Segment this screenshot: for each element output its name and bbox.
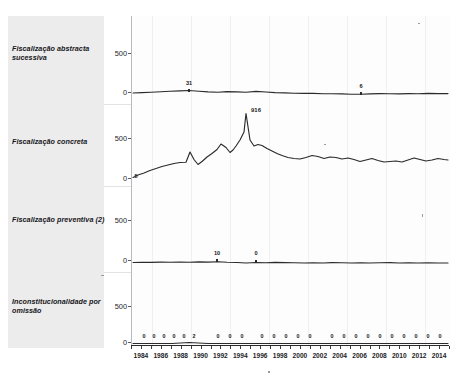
annotation-concreta-916: 916 — [246, 107, 266, 113]
x-tick-mark — [409, 346, 410, 349]
point-label: 0 — [234, 333, 250, 339]
x-tick-mark — [310, 346, 311, 349]
ytick-label-p1-0: 0 — [101, 88, 127, 97]
x-axis-label: 1992 — [209, 352, 231, 359]
x-tick-mark — [330, 346, 331, 349]
x-axis-label: 2002 — [309, 352, 331, 359]
panel-inconstitucionalidade-omissao: 0 0 0 0 0 2 0 0 0 0 0 0 0 0 0 0 0 0 0 0 — [131, 272, 450, 348]
x-axis-label: 1990 — [190, 352, 212, 359]
x-axis-label: 2006 — [349, 352, 371, 359]
ytick-label-p2-500: 500 — [101, 134, 127, 143]
annotation-preventiva-10: 10 — [209, 250, 225, 256]
x-tick-mark — [389, 346, 390, 349]
ytick-label-p4-500: 500 — [101, 302, 127, 311]
annotation-abstracta-31: 31 — [181, 80, 197, 86]
ytick-mark-p2-0 — [128, 178, 131, 179]
ytick-mark-p3-500 — [128, 220, 131, 221]
x-tick-mark — [399, 346, 400, 349]
x-tick-mark — [260, 346, 261, 349]
panel-label-abstracta-sucessiva: Fiscalização abstracta sucessiva — [12, 45, 106, 62]
panel-label-preventiva: Fiscalização preventiva (2) — [12, 216, 106, 225]
datapoint-marker-1989 — [188, 89, 190, 92]
panel-preventiva: 10 0 — [131, 186, 450, 272]
x-axis-label: 2004 — [329, 352, 351, 359]
chart-figure: Fiscalização abstracta sucessiva Fiscali… — [0, 0, 456, 379]
ytick-mark-p3-0 — [128, 260, 131, 261]
x-tick-mark — [230, 346, 231, 349]
x-axis-label: 2014 — [428, 352, 450, 359]
x-tick-mark — [191, 346, 192, 349]
datapoint-marker-1996 — [255, 260, 257, 263]
point-label: 0 — [432, 333, 448, 339]
ytick-label-p3-0: 0 — [101, 256, 127, 265]
x-tick-mark — [250, 346, 251, 349]
x-tick-mark — [300, 346, 301, 349]
scan-speck — [418, 23, 420, 24]
x-axis-label: 1988 — [170, 352, 192, 359]
x-axis-label: 1984 — [130, 352, 152, 359]
x-tick-mark — [141, 346, 142, 349]
x-tick-mark — [290, 346, 291, 349]
x-tick-mark — [181, 346, 182, 349]
ytick-mark-p4-0 — [128, 342, 131, 343]
scan-speck — [268, 371, 270, 373]
x-tick-mark — [449, 346, 450, 349]
x-tick-mark — [161, 346, 162, 349]
scan-speck — [422, 214, 423, 217]
x-tick-mark — [211, 346, 212, 349]
ytick-mark-p2-500 — [128, 138, 131, 139]
x-axis-label: 1998 — [269, 352, 291, 359]
panel-label-inconstitucionalidade-omissao: Inconstitucionalidade por omissão — [12, 298, 106, 315]
series-line-abstracta — [132, 16, 450, 104]
ytick-label-p1-500: 500 — [101, 49, 127, 58]
annotation-concreta-5: 5 — [132, 173, 144, 179]
x-tick-mark — [280, 346, 281, 349]
ytick-label-p3-500: 500 — [101, 216, 127, 225]
x-tick-mark — [320, 346, 321, 349]
x-axis-label: 1996 — [249, 352, 271, 359]
series-line-preventiva — [132, 186, 450, 272]
x-tick-mark — [360, 346, 361, 349]
annotation-preventiva-0: 0 — [248, 250, 264, 256]
x-tick-mark — [131, 346, 132, 349]
panel-label-concreta: Fiscalização concreta — [12, 138, 106, 147]
panel-concreta: 5 916 — [131, 104, 450, 186]
ytick-label-p4-0: 0 — [101, 338, 127, 347]
scan-speck — [101, 275, 104, 276]
panel-strip-3 — [8, 186, 104, 272]
x-tick-mark — [201, 346, 202, 349]
ytick-mark-p1-0 — [128, 92, 131, 93]
panel-abstracta-sucessiva: 31 6 — [131, 16, 450, 104]
datapoint-marker-2007 — [360, 92, 362, 95]
x-tick-mark — [171, 346, 172, 349]
x-tick-mark — [439, 346, 440, 349]
x-tick-mark — [419, 346, 420, 349]
ytick-label-p2-0: 0 — [101, 174, 127, 183]
x-tick-mark — [151, 346, 152, 349]
x-axis-label: 1994 — [229, 352, 251, 359]
x-axis-label: 2012 — [408, 352, 430, 359]
point-label: 2 — [186, 333, 202, 339]
x-axis-label: 2000 — [289, 352, 311, 359]
x-tick-mark — [240, 346, 241, 349]
x-axis-label: 1986 — [150, 352, 172, 359]
datapoint-marker-1992 — [216, 259, 218, 262]
x-tick-mark — [350, 346, 351, 349]
x-tick-mark — [220, 346, 221, 349]
point-label: 0 — [302, 333, 318, 339]
x-axis-label: 2010 — [388, 352, 410, 359]
scan-speck — [324, 144, 326, 145]
annotation-abstracta-6: 6 — [353, 83, 369, 89]
ytick-mark-p4-500 — [128, 306, 131, 307]
ytick-mark-p1-500 — [128, 53, 131, 54]
x-tick-mark — [429, 346, 430, 349]
series-line-concreta — [132, 104, 450, 186]
x-tick-mark — [340, 346, 341, 349]
x-tick-mark — [270, 346, 271, 349]
x-tick-mark — [379, 346, 380, 349]
x-axis-label: 2008 — [368, 352, 390, 359]
x-tick-mark — [370, 346, 371, 349]
